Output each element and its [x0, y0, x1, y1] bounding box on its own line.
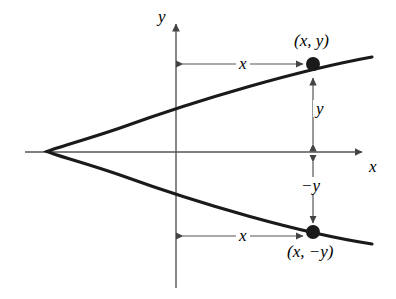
- y-axis-label: y: [158, 8, 166, 25]
- upper-point-label: (x, y): [294, 32, 329, 49]
- y-measure-label: y: [313, 100, 327, 117]
- upper-x-measure-label: x: [236, 55, 250, 72]
- negative-y-measure-label: −y: [298, 177, 323, 194]
- figure-canvas: [0, 0, 396, 299]
- upper-point-dot: [306, 57, 320, 71]
- x-axis-label: x: [369, 158, 377, 175]
- parabola-curve: [47, 57, 372, 244]
- parabola-figure: y x x x y −y (x, y) (x, −y): [0, 0, 396, 299]
- lower-point-dot: [306, 225, 320, 239]
- lower-x-measure-label: x: [236, 227, 250, 244]
- parabola-curve-group: [47, 57, 372, 244]
- lower-point-label: (x, −y): [287, 243, 333, 260]
